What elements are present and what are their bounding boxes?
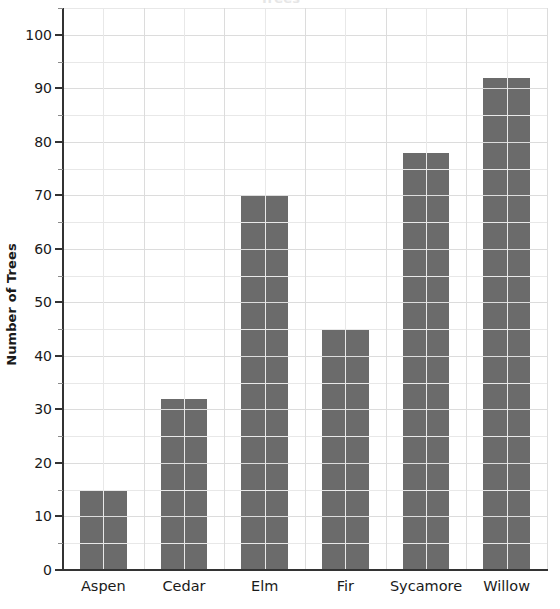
x-tick-label-sycamore: Sycamore <box>390 578 462 594</box>
y-tick-minor <box>58 222 63 223</box>
gridline-vertical <box>144 8 145 570</box>
y-tick-label-100: 100 <box>4 27 52 43</box>
y-tick-major <box>55 569 63 571</box>
y-tick-minor <box>58 329 63 330</box>
x-axis-tick-labels: AspenCedarElmFirSycamoreWillow <box>63 578 547 606</box>
x-tick-label-aspen: Aspen <box>81 578 126 594</box>
y-tick-major <box>55 408 63 410</box>
y-tick-major <box>55 462 63 464</box>
y-tick-minor <box>58 62 63 63</box>
x-axis-spine <box>62 569 548 571</box>
chart-title-remnant: Trees <box>0 0 560 3</box>
x-tick-label-willow: Willow <box>483 578 530 594</box>
y-tick-major <box>55 87 63 89</box>
y-tick-minor <box>58 436 63 437</box>
y-tick-major <box>55 248 63 250</box>
gridline-vertical-minor <box>426 8 427 570</box>
y-tick-label-50: 50 <box>4 294 52 310</box>
gridline-vertical-minor <box>184 8 185 570</box>
y-tick-label-90: 90 <box>4 80 52 96</box>
y-tick-label-70: 70 <box>4 187 52 203</box>
y-tick-minor <box>58 490 63 491</box>
gridline-vertical-minor <box>345 8 346 570</box>
y-tick-major <box>55 141 63 143</box>
bar-chart-figure: Trees Number of Trees 010203040506070809… <box>0 0 560 609</box>
y-tick-label-30: 30 <box>4 401 52 417</box>
y-tick-label-60: 60 <box>4 241 52 257</box>
gridline-vertical-minor <box>507 8 508 570</box>
y-tick-label-40: 40 <box>4 348 52 364</box>
gridline-vertical-minor <box>265 8 266 570</box>
y-tick-major <box>55 301 63 303</box>
gridline-vertical <box>305 8 306 570</box>
y-tick-label-20: 20 <box>4 455 52 471</box>
y-tick-label-0: 0 <box>4 562 52 578</box>
y-tick-minor <box>58 8 63 9</box>
y-tick-minor <box>58 115 63 116</box>
gridline-vertical <box>547 8 548 570</box>
y-tick-minor <box>58 169 63 170</box>
y-axis-tick-labels: 0102030405060708090100 <box>0 0 52 609</box>
x-tick-label-cedar: Cedar <box>162 578 205 594</box>
x-tick-label-elm: Elm <box>251 578 278 594</box>
gridline-vertical <box>466 8 467 570</box>
x-tick-label-fir: Fir <box>337 578 354 594</box>
y-tick-major <box>55 355 63 357</box>
y-tick-label-80: 80 <box>4 134 52 150</box>
gridline-vertical-minor <box>103 8 104 570</box>
y-tick-label-10: 10 <box>4 508 52 524</box>
gridline-vertical <box>224 8 225 570</box>
y-axis-spine <box>62 8 64 571</box>
y-tick-minor <box>58 383 63 384</box>
y-tick-minor <box>58 543 63 544</box>
y-tick-major <box>55 515 63 517</box>
plot-area <box>63 8 547 570</box>
y-tick-major <box>55 194 63 196</box>
y-tick-minor <box>58 276 63 277</box>
y-tick-major <box>55 34 63 36</box>
gridline-vertical <box>386 8 387 570</box>
